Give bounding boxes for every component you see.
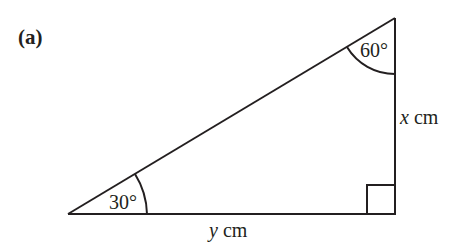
angle-label-60: 60° (360, 39, 388, 61)
part-label: (a) (18, 25, 43, 49)
right-triangle (68, 18, 395, 214)
side-label-y: y cm (207, 219, 248, 242)
right-angle-marker (367, 185, 395, 214)
hypotenuse (68, 18, 395, 214)
triangle-diagram: (a) 30° 60° x cm y cm (0, 0, 458, 251)
side-label-x: x cm (399, 106, 439, 128)
angle-label-30: 30° (109, 191, 137, 213)
